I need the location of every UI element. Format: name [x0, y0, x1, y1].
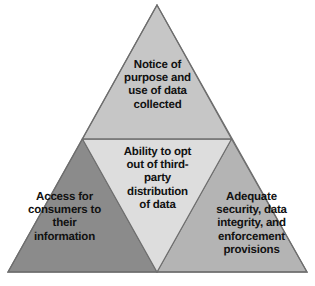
triangle-diagram-graphic [0, 0, 315, 286]
triangle-section-top [83, 5, 232, 139]
privacy-principles-triangle-diagram: Notice of purpose and use of data collec… [0, 0, 315, 286]
